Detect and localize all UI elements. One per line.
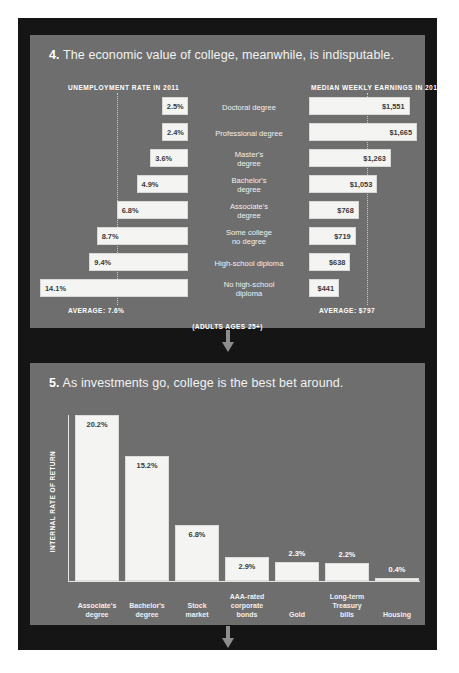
earnings-bar: $1,551 [309,97,410,115]
unemployment-bar-cell: 2.4% [30,121,188,145]
earnings-bar-value: $1,551 [382,102,405,111]
education-level-label-line: degree [237,185,261,194]
panel-4-title: 4. The economic value of college, meanwh… [49,48,394,62]
education-level-label: Bachelor'sdegree [190,173,308,197]
unemployment-bar: 8.7% [97,227,188,245]
panel-economic-value: 4. The economic value of college, meanwh… [30,35,425,328]
education-level-label-line: Associate's [230,202,268,211]
down-arrow-icon [222,626,234,648]
education-level-label-line: no degree [232,237,266,246]
unemployment-bar-cell: 4.9% [30,173,188,197]
rate-of-return-chart: INTERNAL RATE OF RETURN 20.2%Associate's… [30,363,425,625]
panel-4-number: 4. [49,48,60,62]
education-level-label: Professional degree [190,121,308,145]
investment-bar-value: 0.4% [372,565,422,574]
investment-category-label-line: bills [319,610,375,619]
investment-category-label-line: Housing [369,610,425,619]
unemployment-bar: 2.4% [162,123,188,141]
education-level-row: 4.9%Bachelor'sdegree$1,053 [30,173,425,197]
unemployment-bar-value: 8.7% [102,232,119,241]
earnings-bar: $1,053 [309,175,377,193]
investment-category-label-line: market [169,610,225,619]
earnings-bar-value: $441 [318,284,334,293]
investment-category-label-line: bonds [219,610,275,619]
unemployment-average-label: AVERAGE: 7.6% [68,307,124,314]
investment-bar [325,563,369,581]
earnings-column-heading: MEDIAN WEEKLY EARNINGS IN 2011 [311,84,441,91]
earnings-bar: $1,263 [309,149,391,167]
earnings-bar-cell: $719 [309,225,425,249]
unemployment-bar: 2.5% [162,97,188,115]
unemployment-bar-cell: 6.8% [30,199,188,223]
investment-column: 20.2%Associate'sdegree [72,363,122,625]
investment-column: 15.2%Bachelor'sdegree [122,363,172,625]
education-level-label-line: degree [237,159,261,168]
investment-column: 2.2%Long-termTreasurybills [322,363,372,625]
education-level-label-line: High-school diploma [215,259,284,268]
investment-bar-value: 15.2% [122,461,172,470]
investment-category-label-line: AAA-rated [219,592,275,601]
education-level-label-line: No high-school [224,280,275,289]
education-level-row: 3.6%Master'sdegree$1,263 [30,147,425,171]
unemployment-bar-value: 4.9% [142,180,159,189]
investment-category-label-line: degree [69,610,125,619]
earnings-bar-value: $1,665 [389,128,412,137]
unemployment-column-heading: UNEMPLOYMENT RATE IN 2011 [68,84,179,91]
earnings-bar-cell: $1,551 [309,95,425,119]
investment-column: 2.9%AAA-ratedcorporatebonds [222,363,272,625]
unemployment-bar-cell: 8.7% [30,225,188,249]
earnings-bar-value: $638 [329,258,345,267]
unemployment-bar-value: 2.4% [167,128,184,137]
investment-column: 2.3%Gold [272,363,322,625]
y-axis-title: INTERNAL RATE OF RETURN [49,432,56,572]
education-level-label: High-school diploma [190,251,308,275]
investment-bar [375,578,419,581]
adults-age-footnote: (ADULTS AGES 25+) [30,323,425,330]
earnings-bar-value: $768 [337,206,353,215]
infographic-frame: 4. The economic value of college, meanwh… [18,18,437,650]
unemployment-bar: 6.8% [117,201,188,219]
investment-bar-value: 2.9% [222,562,272,571]
investment-bar-value: 6.8% [172,530,222,539]
investment-category-label: Long-termTreasurybills [319,592,375,619]
unemployment-bar-cell: 9.4% [30,251,188,275]
investment-category-label: AAA-ratedcorporatebonds [219,592,275,619]
unemployment-bar: 3.6% [150,149,188,167]
education-level-label-line: Master's [235,150,263,159]
y-axis-line [68,415,69,582]
earnings-bar: $441 [309,279,339,297]
panel-4-title-text: The economic value of college, meanwhile… [63,48,394,62]
earnings-bar-cell: $1,263 [309,147,425,171]
earnings-bar-value: $1,053 [350,180,373,189]
investment-category-label: Associate'sdegree [69,601,125,619]
earnings-bar-value: $719 [334,232,350,241]
unemployment-bar: 14.1% [40,279,188,297]
earnings-bar: $719 [309,227,356,245]
education-level-label-line: diploma [236,289,263,298]
investment-category-label-line: Long-term [319,592,375,601]
earnings-bar-cell: $638 [309,251,425,275]
investment-category-label: Housing [369,610,425,619]
earnings-bar-cell: $1,053 [309,173,425,197]
investment-column: 0.4%Housing [372,363,422,625]
education-level-label-line: Bachelor's [231,176,266,185]
arrow-head [222,342,234,352]
education-level-row: 6.8%Associate'sdegree$768 [30,199,425,223]
investment-category-label-line: Gold [269,610,325,619]
unemployment-bar-value: 3.6% [155,154,172,163]
panel-investments: 5. As investments go, college is the bes… [30,363,425,625]
investment-bar [75,415,119,581]
earnings-bar: $768 [309,201,359,219]
unemployment-bar-value: 6.8% [122,206,139,215]
education-level-row: 9.4%High-school diploma$638 [30,251,425,275]
education-level-label-line: Some college [226,228,272,237]
unemployment-bar-cell: 14.1% [30,277,188,301]
education-level-label: Master'sdegree [190,147,308,171]
earnings-bar-cell: $768 [309,199,425,223]
education-level-row: 8.7%Some collegeno degree$719 [30,225,425,249]
earnings-bar: $1,665 [309,123,417,141]
investment-category-label-line: Bachelor's [119,601,175,610]
investment-category-label-line: Associate's [69,601,125,610]
arrow-head [222,638,234,648]
investment-bar-value: 2.2% [322,550,372,559]
